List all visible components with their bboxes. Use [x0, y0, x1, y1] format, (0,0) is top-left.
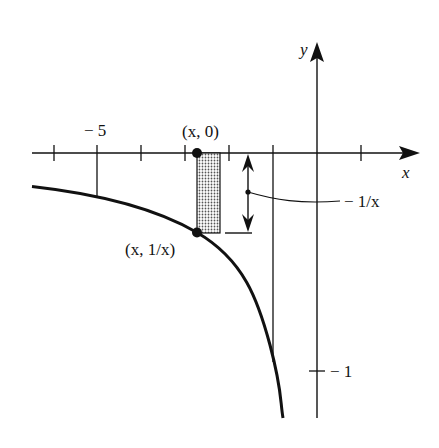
leader-line	[248, 192, 340, 202]
x-axis-label: x	[401, 163, 410, 182]
y-axis-label: y	[298, 40, 308, 59]
y-axis	[309, 42, 325, 418]
point-label-x-zero: (x, 0)	[182, 122, 219, 141]
height-label: − 1/x	[344, 192, 380, 211]
point-x-zero	[192, 148, 202, 158]
point-label-x-one-over-x: (x, 1/x)	[125, 240, 175, 259]
diagram-canvas: y x − 5 − 1 (x, 0) (x, 1/x) − 1/x	[0, 0, 439, 448]
point-x-one-over-x	[192, 228, 202, 238]
y-tick-label-minus-one: − 1	[330, 362, 352, 381]
x-tick-label-minus-five: − 5	[84, 121, 106, 140]
shaded-strip	[197, 153, 220, 233]
